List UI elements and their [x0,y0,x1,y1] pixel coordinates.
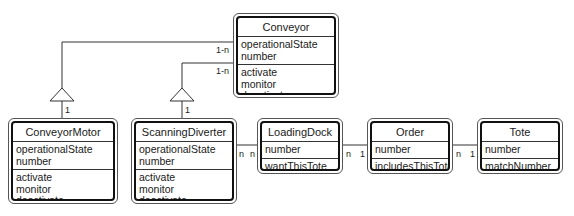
operation: activate [16,172,110,184]
class-scanning-diverter[interactable]: ScanningDiverter operationalState number… [131,118,237,204]
class-conveyor[interactable]: Conveyor operationalState number activat… [233,13,339,98]
attribute: number [16,156,110,168]
class-name: ScanningDiverter [136,123,232,142]
class-loading-dock[interactable]: LoadingDock number wantThisTote [257,118,343,174]
operation: deactivate [16,195,110,201]
operations-section: includesThisTote [372,158,448,172]
class-frame: ScanningDiverter operationalState number… [134,121,234,201]
multiplicity-label: 1 [185,105,190,115]
class-tote[interactable]: Tote number matchNumber [477,118,563,174]
operation: deactivate [139,195,229,201]
attribute: operationalState [241,39,331,51]
multiplicity-label: 1 [65,105,70,115]
class-frame: ConveyorMotor operationalState number ac… [11,121,115,201]
operations-section: activate monitor deactivate [136,169,232,201]
aggregation-triangle-icon [170,88,194,101]
operation: activate [139,172,229,184]
operation: activate [241,67,331,79]
multiplicity-label: n [346,149,351,159]
attributes-section: number [482,142,558,158]
operations-section: matchNumber [482,158,558,172]
attribute: operationalState [139,144,229,156]
conveyor-motor-link [62,42,233,88]
attributes-section: number [372,142,448,158]
aggregation-triangle-icon [50,88,74,101]
attributes-section: operationalState number [238,37,334,64]
class-frame: LoadingDock number wantThisTote [260,121,340,171]
attribute: operationalState [16,144,110,156]
operation: includesThisTote [375,161,445,172]
operation: deactivate [241,90,331,95]
attributes-section: operationalState number [136,142,232,169]
operations-section: wantThisTote [262,158,338,172]
attribute: number [241,51,331,63]
multiplicity-label: n [456,149,461,159]
class-frame: Tote number matchNumber [480,121,560,171]
class-name: ConveyorMotor [13,123,113,142]
attribute: number [265,144,335,156]
operation: matchNumber [485,161,555,172]
operations-section: activate monitor deactivate [13,169,113,201]
multiplicity-label: n [239,149,244,159]
class-name: Conveyor [238,18,334,37]
multiplicity-label: 1 [470,149,475,159]
attribute: number [375,144,445,156]
class-frame: Conveyor operationalState number activat… [236,16,336,95]
class-name: Tote [482,123,558,142]
class-order[interactable]: Order number includesThisTote [367,118,453,174]
attributes-section: operationalState number [13,142,113,169]
attribute: number [485,144,555,156]
multiplicity-label: n [250,149,255,159]
attribute: number [139,156,229,168]
multiplicity-label: 1-n [216,45,229,55]
class-name: Order [372,123,448,142]
attributes-section: number [262,142,338,158]
class-conveyor-motor[interactable]: ConveyorMotor operationalState number ac… [8,118,118,204]
multiplicity-label: 1 [360,149,365,159]
class-frame: Order number includesThisTote [370,121,450,171]
operations-section: activate monitor deactivate [238,64,334,95]
operation: wantThisTote [265,161,335,172]
multiplicity-label: 1-n [216,66,229,76]
class-name: LoadingDock [262,123,338,142]
